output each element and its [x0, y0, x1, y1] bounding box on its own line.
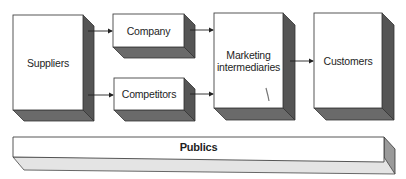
competitors-label: Competitors [114, 78, 184, 110]
publics-label: Publics [13, 137, 384, 157]
diagram-canvas: Suppliers Company Competitors Marketing … [0, 0, 406, 179]
company-label: Company [113, 14, 184, 47]
marketing-intermediaries-label: Marketing intermediaries [220, 13, 277, 108]
suppliers-label: Suppliers [13, 15, 83, 110]
customers-label: Customers [314, 13, 382, 108]
